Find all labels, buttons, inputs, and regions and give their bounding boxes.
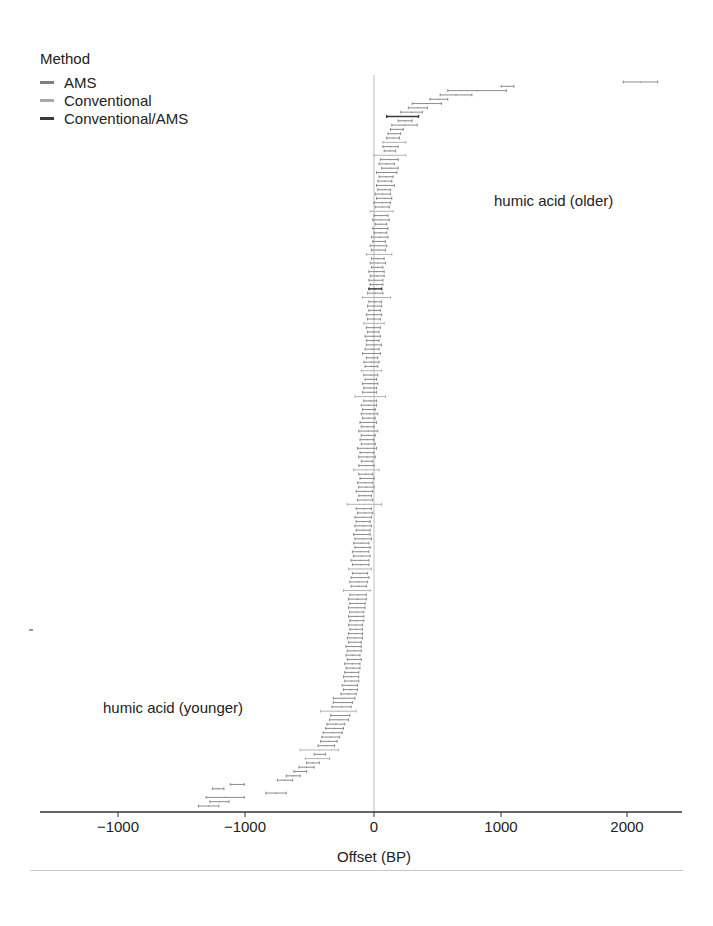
interval-midpoint (317, 758, 318, 759)
interval-midpoint (386, 163, 387, 164)
interval-midpoint (378, 245, 379, 246)
interval-midpoint (394, 133, 395, 134)
interval-midpoint (332, 732, 333, 733)
interval-midpoint (375, 301, 376, 302)
x-tick-label: −1000 (97, 818, 139, 835)
interval-midpoint (380, 228, 381, 229)
interval-midpoint (373, 331, 374, 332)
interval-midpoint (382, 193, 383, 194)
interval-midpoint (275, 792, 276, 793)
interval-midpoint (356, 629, 357, 630)
interval-midpoint (366, 465, 367, 466)
interval-midpoint (359, 568, 360, 569)
interval-midpoint (359, 573, 360, 574)
interval-midpoint (364, 504, 365, 505)
interval-midpoint (360, 551, 361, 552)
interval-midpoint (370, 396, 371, 397)
interval-midpoint (352, 663, 353, 664)
interval-midpoint (384, 189, 385, 190)
interval-midpoint (455, 94, 456, 95)
interval-midpoint (394, 142, 395, 143)
interval-midpoint (237, 784, 238, 785)
annotation-older: humic acid (older) (494, 192, 613, 209)
interval-midpoint (364, 512, 365, 513)
interval-midpoint (338, 711, 339, 712)
interval-midpoint (384, 198, 385, 199)
legend-label-conventional-ams: Conventional/AMS (64, 110, 188, 127)
interval-midpoint (369, 413, 370, 414)
interval-midpoint (319, 754, 320, 755)
interval-midpoint (373, 314, 374, 315)
interval-midpoint (351, 676, 352, 677)
interval-midpoint (371, 353, 372, 354)
interval-midpoint (372, 340, 373, 341)
legend-item-ams: AMS (40, 74, 97, 91)
legend-item-conventional-ams: Conventional/AMS (40, 110, 188, 127)
interval-midpoint (438, 99, 439, 100)
interval-midpoint (366, 456, 367, 457)
interval-midpoint (356, 611, 357, 612)
interval-midpoint (364, 491, 365, 492)
x-tick-label: 0 (370, 818, 378, 835)
interval-midpoint (363, 517, 364, 518)
interval-midpoint (338, 719, 339, 720)
interval-midpoint (378, 241, 379, 242)
interval-midpoint (380, 215, 381, 216)
interval-midpoint (306, 767, 307, 768)
legend-swatch-conventional-ams-icon (40, 117, 54, 120)
interval-midpoint (640, 81, 641, 82)
interval-midpoint (334, 728, 335, 729)
interval-midpoint (476, 90, 477, 91)
x-tick-label: 2000 (610, 818, 643, 835)
interval-midpoint (392, 137, 393, 138)
interval-midpoint (368, 405, 369, 406)
legend-item-conventional: Conventional (40, 92, 152, 109)
interval-midpoint (372, 336, 373, 337)
interval-midpoint (219, 801, 220, 802)
interval-bars (198, 81, 657, 808)
interval-midpoint (382, 206, 383, 207)
interval-midpoint (366, 478, 367, 479)
interval-midpoint (378, 254, 379, 255)
interval-midpoint (368, 409, 369, 410)
interval-midpoint (369, 392, 370, 393)
interval-midpoint (375, 288, 376, 289)
interval-midpoint (380, 224, 381, 225)
interval-midpoint (389, 168, 390, 169)
interval-midpoint (373, 344, 374, 345)
interval-midpoint (426, 103, 427, 104)
interval-midpoint (411, 112, 412, 113)
interval-midpoint (361, 534, 362, 535)
interval-midpoint (367, 426, 368, 427)
interval-midpoint (405, 120, 406, 121)
interval-midpoint (371, 366, 372, 367)
interval-midpoint (358, 581, 359, 582)
legend-swatch-conventional-icon (40, 99, 54, 102)
interval-midpoint (386, 172, 387, 173)
interval-midpoint (373, 323, 374, 324)
interval-midpoint (356, 620, 357, 621)
x-axis-title: Offset (BP) (337, 848, 411, 865)
interval-midpoint (349, 685, 350, 686)
interval-midpoint (389, 155, 390, 156)
interval-midpoint (370, 383, 371, 384)
interval-midpoint (355, 624, 356, 625)
interval-midpoint (404, 124, 405, 125)
interval-midpoint (326, 745, 327, 746)
interval-midpoint (507, 86, 508, 87)
interval-midpoint (341, 706, 342, 707)
interval-midpoint (385, 176, 386, 177)
interval-midpoint (361, 543, 362, 544)
interval-midpoint (371, 370, 372, 371)
interval-midpoint (328, 741, 329, 742)
bottom-divider (30, 870, 683, 871)
interval-midpoint (363, 538, 364, 539)
interval-midpoint (365, 474, 366, 475)
interval-midpoint (359, 577, 360, 578)
interval-midpoint (376, 297, 377, 298)
interval-midpoint (300, 771, 301, 772)
interval-midpoint (368, 418, 369, 419)
stray-mark (29, 629, 33, 631)
interval-midpoint (364, 482, 365, 483)
interval-midpoint (373, 318, 374, 319)
